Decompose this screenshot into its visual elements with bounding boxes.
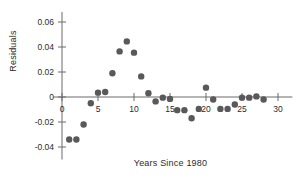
x-tick-label: 25 <box>237 104 247 114</box>
data-point <box>210 96 216 102</box>
x-tick-label: 0 <box>60 104 65 114</box>
data-point <box>138 73 144 79</box>
data-point <box>232 101 238 107</box>
data-point <box>152 98 158 104</box>
data-point <box>102 89 108 95</box>
chart-canvas: 051015202530-0.04-0.020.020.040.060 <box>0 0 307 182</box>
x-axis-title-text: Years Since 1980 <box>134 158 207 168</box>
x-axis-title: Years Since 1980 <box>0 158 307 168</box>
data-point <box>181 107 187 113</box>
y-tick-label: 0.04 <box>37 42 54 52</box>
data-point <box>203 84 209 90</box>
x-tick-label: 5 <box>96 104 101 114</box>
data-point <box>188 115 194 121</box>
data-point <box>239 94 245 100</box>
data-point <box>88 100 94 106</box>
data-point <box>167 96 173 102</box>
data-point <box>109 70 115 76</box>
y-tick-label: 0.02 <box>37 67 54 77</box>
data-point <box>246 94 252 100</box>
data-point <box>131 49 137 55</box>
x-tick-label: 15 <box>165 104 175 114</box>
data-point <box>95 89 101 95</box>
data-points-layer <box>66 38 267 143</box>
data-point <box>116 48 122 54</box>
data-point <box>80 121 86 127</box>
data-point <box>160 94 166 100</box>
y-tick-label: 0.06 <box>37 17 54 27</box>
ticks-layer <box>58 22 278 147</box>
data-point <box>253 93 259 99</box>
x-tick-label: 10 <box>129 104 139 114</box>
scatter-plot-figure: Residuals 051015202530-0.04-0.020.020.04… <box>0 0 307 182</box>
data-point <box>196 106 202 112</box>
x-tick-label: 20 <box>201 104 211 114</box>
data-point <box>224 106 230 112</box>
data-point <box>174 107 180 113</box>
tick-labels-layer: 051015202530-0.04-0.020.020.040.060 <box>35 17 283 152</box>
data-point <box>124 38 130 44</box>
data-point <box>66 136 72 142</box>
data-point <box>217 106 223 112</box>
y-tick-label-zero: 0 <box>49 92 54 102</box>
data-point <box>260 96 266 102</box>
data-point <box>73 136 79 142</box>
axes-layer <box>53 12 292 160</box>
y-tick-label: -0.02 <box>35 117 55 127</box>
data-point <box>145 90 151 96</box>
y-tick-label: -0.04 <box>35 142 55 152</box>
x-tick-label: 30 <box>273 104 283 114</box>
